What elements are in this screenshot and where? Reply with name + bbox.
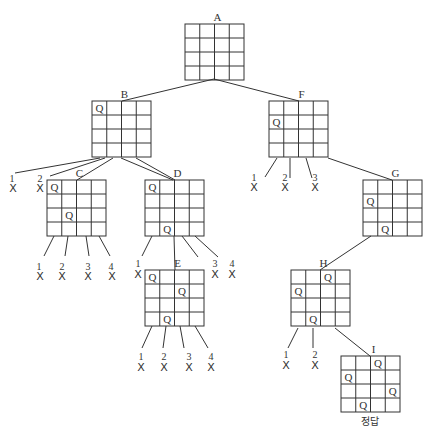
tree-edge: [335, 328, 370, 356]
leaf-edge: [142, 236, 152, 256]
node-label: H: [320, 257, 328, 269]
leaf-edge: [182, 236, 198, 257]
tree-edge: [214, 79, 299, 101]
queen-icon: Q: [389, 385, 397, 397]
queen-icon: Q: [374, 357, 382, 369]
queen-icon: Q: [148, 181, 156, 193]
failed-leaf-f-3: 3X: [306, 158, 319, 194]
node-label: I: [372, 343, 376, 355]
fail-x-icon: X: [134, 268, 142, 281]
failed-leaf-e-3: 3X: [180, 326, 193, 374]
state-space-tree-diagram: 1X2X1X2X3X4X1X3X4X1X2X3X4X1X2X3X1X2X ABQ…: [0, 0, 430, 435]
queen-icon: Q: [163, 313, 171, 325]
fail-x-icon: X: [281, 181, 289, 194]
fail-x-icon: X: [228, 268, 236, 281]
board-node-e: EQQQ: [145, 257, 204, 326]
fail-x-icon: X: [9, 182, 17, 195]
board-node-b: BQ: [92, 88, 151, 157]
leaf-edge: [44, 236, 54, 256]
failed-leaf-d-3: 3X: [182, 236, 219, 281]
tree-edge: [122, 79, 214, 101]
queen-icon: Q: [148, 271, 156, 283]
fail-x-icon: X: [36, 270, 44, 283]
failed-leaf-f-2: 2X: [281, 158, 290, 194]
leaf-edge: [65, 236, 68, 256]
failed-leaf-e-2: 2X: [160, 326, 168, 374]
leaf-edge: [288, 328, 298, 348]
fail-x-icon: X: [108, 270, 116, 283]
queen-icon: Q: [324, 271, 332, 283]
board-nodes-layer: ABQCQQDQQEQQQFQGQQHQQQIQQQQ: [47, 11, 422, 412]
board-node-c: CQQ: [47, 167, 106, 236]
leaf-edge: [195, 326, 208, 348]
failed-leaf-c-1: 1X: [36, 236, 54, 283]
leaf-edge: [142, 326, 152, 348]
node-label: D: [174, 167, 182, 179]
node-label: E: [174, 257, 181, 269]
fail-x-icon: X: [36, 182, 44, 195]
leaf-edge: [99, 236, 110, 256]
answer-label: 정답: [361, 416, 379, 427]
leaf-edge: [180, 326, 184, 348]
failed-leaf-f-1: 1X: [250, 158, 277, 194]
fail-x-icon: X: [137, 361, 145, 374]
node-label: G: [392, 167, 400, 179]
queen-icon: Q: [294, 285, 302, 297]
fail-x-icon: X: [311, 181, 319, 194]
queen-icon: Q: [381, 223, 389, 235]
fail-x-icon: X: [160, 361, 168, 374]
fail-x-icon: X: [207, 361, 215, 374]
failed-leaf-e-1: 1X: [137, 326, 152, 374]
tree-edge: [320, 236, 371, 270]
queen-icon: Q: [163, 223, 171, 235]
queen-icon: Q: [272, 116, 280, 128]
fail-x-icon: X: [211, 268, 219, 281]
fail-x-icon: X: [250, 181, 258, 194]
queen-icon: Q: [366, 195, 374, 207]
queen-icon: Q: [309, 313, 317, 325]
tree-edge: [328, 158, 392, 180]
board-node-i: IQQQQ: [341, 343, 400, 412]
node-label: F: [298, 88, 304, 100]
fail-x-icon: X: [84, 270, 92, 283]
tree-edge: [121, 158, 173, 180]
failed-leaf-c-4: 4X: [99, 236, 116, 283]
failed-leaf-h-2: 2X: [311, 328, 319, 372]
fail-x-icon: X: [185, 361, 193, 374]
leaf-edge: [15, 158, 100, 173]
queen-icon: Q: [359, 399, 367, 411]
leaf-edge: [265, 158, 277, 177]
failed-leaf-c-2: 2X: [58, 236, 68, 283]
failed-leaf-h-1: 1X: [282, 328, 298, 372]
queen-icon: Q: [344, 371, 352, 383]
queen-icon: Q: [178, 285, 186, 297]
board-node-a: A: [185, 11, 244, 80]
board-node-d: DQQ: [145, 167, 204, 236]
queen-icon: Q: [95, 102, 103, 114]
queen-icon: Q: [50, 181, 58, 193]
leaf-edge: [195, 236, 218, 257]
node-label: C: [76, 167, 83, 179]
queen-icon: Q: [65, 209, 73, 221]
fail-x-icon: X: [58, 270, 66, 283]
tree-edge: [136, 158, 175, 180]
node-label: B: [121, 88, 128, 100]
failed-leaf-e-4: 4X: [195, 326, 215, 374]
leaf-edge: [306, 158, 312, 178]
board-node-g: GQQ: [363, 167, 422, 236]
board-node-h: HQQQ: [291, 257, 350, 326]
tree-canvas: 1X2X1X2X3X4X1X3X4X1X2X3X4X1X2X3X1X2X ABQ…: [0, 0, 430, 435]
node-label: A: [214, 11, 222, 23]
edges-layer: [77, 79, 392, 356]
fail-x-icon: X: [282, 359, 290, 372]
board-node-f: FQ: [269, 88, 328, 157]
failed-leaf-c-3: 3X: [84, 236, 92, 283]
leaf-edge: [86, 236, 89, 256]
leaf-edge: [163, 326, 166, 348]
fail-x-icon: X: [311, 359, 319, 372]
